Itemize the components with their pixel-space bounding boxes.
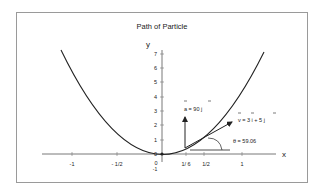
velocity-label: v = 3 i + 5 j — [238, 117, 265, 123]
y-axis-label: y — [146, 40, 150, 49]
svg-text:4: 4 — [154, 94, 157, 100]
svg-text:-1: -1 — [70, 161, 75, 167]
svg-text:3: 3 — [154, 108, 157, 114]
svg-text:1/ 6: 1/ 6 — [181, 161, 190, 167]
svg-text:2: 2 — [154, 122, 157, 128]
svg-text:6: 6 — [154, 65, 157, 71]
origin-point — [160, 152, 163, 155]
particle-path-diagram: Path of Particle x y 7 6 5 4 3 2 1 0 -1 … — [0, 0, 320, 192]
svg-text:7: 7 — [154, 51, 157, 57]
svg-text:1: 1 — [240, 161, 243, 167]
acceleration-label: a = 90 j — [184, 106, 202, 112]
svg-text:5: 5 — [154, 79, 157, 85]
x-axis-label: x — [282, 150, 286, 159]
svg-text:-1: -1 — [153, 166, 158, 172]
svg-text:- 1/2: - 1/2 — [111, 161, 122, 167]
angle-label: θ = 59.06 — [233, 138, 256, 144]
svg-text:1/2: 1/2 — [202, 161, 210, 167]
svg-text:1: 1 — [154, 137, 157, 143]
chart-title: Path of Particle — [137, 22, 188, 31]
